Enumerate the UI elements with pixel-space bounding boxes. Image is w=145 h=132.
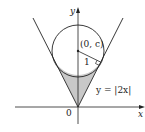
origin-label: 0 — [66, 108, 72, 118]
center-label: (0, c) — [80, 39, 104, 49]
y-axis-label: y — [69, 6, 76, 16]
y-axis-arrow-icon — [76, 7, 80, 13]
x-axis-label: x — [138, 109, 143, 119]
v-line-left — [33, 18, 78, 107]
curve-label: y = |2x| — [95, 85, 131, 96]
radius-label: 1 — [84, 57, 90, 67]
diagram-canvas: y x 0 (0, c) 1 y = |2x| — [0, 0, 145, 132]
